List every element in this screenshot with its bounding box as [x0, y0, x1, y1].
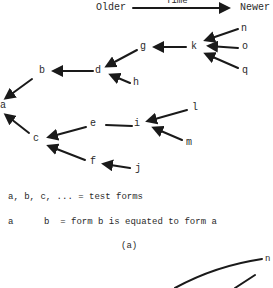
curve-partial-2 — [235, 275, 255, 288]
node-i: i — [134, 119, 140, 129]
edge-f-c — [49, 146, 85, 160]
edge-l-i — [148, 110, 187, 121]
node-b: b — [39, 66, 45, 76]
edge-e-c — [49, 127, 86, 137]
node-h: h — [133, 78, 139, 88]
older-label: Older — [96, 3, 126, 13]
curve-to-n — [175, 259, 262, 288]
legend-test-forms: a, b, c, ... = test forms — [8, 193, 143, 202]
edge-m-i — [154, 128, 182, 140]
legend-equating-left: a — [8, 218, 13, 227]
node-n: n — [241, 24, 247, 34]
node-a: a — [0, 101, 6, 111]
edge-h-d — [111, 75, 130, 83]
node-l: l — [192, 103, 198, 113]
node-c: c — [33, 134, 39, 144]
edge-q-k — [206, 54, 238, 68]
partial-node-n: n — [265, 254, 270, 264]
newer-label: Newer — [240, 3, 270, 13]
node-e: e — [90, 119, 96, 129]
node-f: f — [90, 157, 96, 167]
figure-caption: (a) — [121, 242, 137, 251]
edge-g-d — [107, 50, 137, 66]
edge-i-e — [106, 125, 132, 126]
legend-equating-right: b = form b is equated to form a — [44, 218, 217, 227]
node-m: m — [186, 138, 192, 148]
edge-b-a — [6, 79, 32, 98]
edge-c-a — [6, 115, 29, 133]
time-label: Time — [166, 0, 188, 6]
node-k: k — [191, 42, 197, 52]
node-d: d — [95, 66, 101, 76]
node-o: o — [242, 42, 248, 52]
node-q: q — [242, 66, 248, 76]
edge-n-k — [206, 29, 238, 40]
node-j: j — [135, 164, 141, 174]
edge-o-k — [209, 46, 238, 48]
node-g: g — [140, 42, 146, 52]
edge-j-f — [104, 164, 130, 168]
